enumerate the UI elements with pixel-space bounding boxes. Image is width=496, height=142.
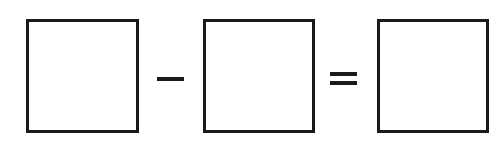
operand-box-1[interactable] — [26, 19, 139, 133]
operand-box-2[interactable] — [203, 19, 315, 133]
equals-bar-bottom — [330, 81, 357, 85]
result-box[interactable] — [377, 19, 489, 133]
equals-bar-top — [330, 72, 357, 76]
minus-sign-icon — [157, 77, 184, 81]
